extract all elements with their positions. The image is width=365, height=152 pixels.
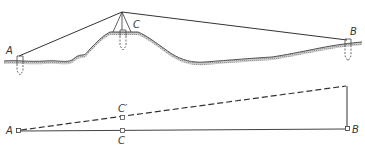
ground-line	[4, 32, 362, 62]
label-b-profile: B	[350, 26, 357, 37]
terrain-profile	[4, 32, 362, 65]
label-a-schematic: A	[5, 125, 13, 136]
point-c-prime-marker	[121, 116, 125, 120]
stake-a-icon	[17, 56, 23, 75]
terrain-shading	[4, 32, 362, 65]
base-line	[21, 129, 345, 131]
label-c-prime-schematic: C′	[118, 103, 128, 114]
point-b-marker	[346, 127, 350, 131]
schematic: A C′ C B	[5, 86, 359, 146]
label-c-profile: C	[133, 19, 140, 30]
survey-diagram: A C B A C′ C B	[0, 0, 365, 152]
point-c-marker	[121, 129, 125, 133]
sight-line-to-b	[122, 12, 347, 40]
dashed-sight-line	[21, 86, 346, 130]
label-a-profile: A	[5, 45, 13, 56]
stake-b-icon	[345, 39, 351, 61]
point-a-marker	[17, 129, 21, 133]
label-c-schematic: C	[118, 135, 125, 146]
label-b-schematic: B	[352, 124, 359, 135]
